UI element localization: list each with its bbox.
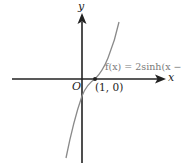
function-label: f(x) = 2sinh(x − 1)	[105, 61, 181, 72]
point-label: (1, 0)	[95, 81, 123, 93]
x-axis-label: x	[168, 71, 174, 84]
y-axis-label: y	[78, 0, 84, 13]
function-graph	[0, 0, 181, 168]
origin-label: O	[72, 80, 81, 93]
